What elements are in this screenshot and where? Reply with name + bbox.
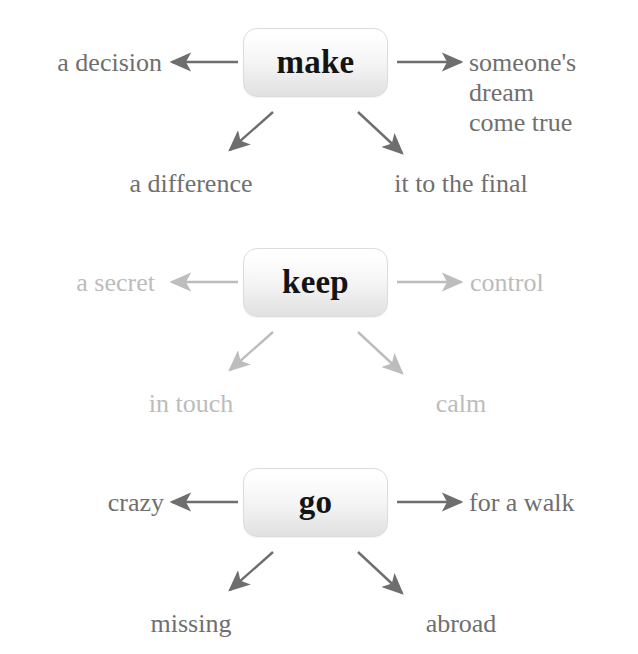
arrow-down-left-icon: [230, 112, 273, 150]
collocation-label-make-right: someone's dream come true: [469, 48, 576, 138]
arrow-down-right-icon: [358, 552, 402, 593]
collocation-label-make-down-left: a difference: [60, 169, 322, 199]
collocation-cluster-make: make a decision someone's dream come tru…: [0, 0, 638, 218]
verb-label-keep: keep: [282, 266, 349, 299]
arrow-down-left-icon: [230, 332, 273, 370]
collocation-label-go-right: for a walk: [469, 488, 574, 518]
verb-label-make: make: [277, 46, 355, 79]
collocation-label-keep-right: control: [470, 268, 544, 298]
collocation-label-keep-down-right: calm: [330, 389, 592, 419]
collocation-diagram: make a decision someone's dream come tru…: [0, 0, 638, 654]
collocation-label-go-down-left: missing: [60, 609, 322, 639]
verb-box-go[interactable]: go: [243, 468, 388, 537]
collocation-label-keep-down-left: in touch: [60, 389, 322, 419]
verb-box-make[interactable]: make: [243, 28, 388, 97]
collocation-label-make-down-right: it to the final: [330, 169, 592, 199]
collocation-cluster-keep: keep a secret control in touch calm: [0, 220, 638, 438]
collocation-cluster-go: go crazy for a walk missing abroad: [0, 440, 638, 654]
arrow-down-right-icon: [358, 112, 402, 153]
collocation-label-go-down-right: abroad: [330, 609, 592, 639]
collocation-label-go-left: crazy: [108, 488, 164, 518]
arrow-down-left-icon: [230, 552, 273, 590]
verb-box-keep[interactable]: keep: [243, 248, 388, 317]
collocation-label-make-left: a decision: [57, 48, 162, 78]
verb-label-go: go: [299, 486, 332, 519]
collocation-label-keep-left: a secret: [76, 268, 155, 298]
arrow-down-right-icon: [358, 332, 402, 373]
